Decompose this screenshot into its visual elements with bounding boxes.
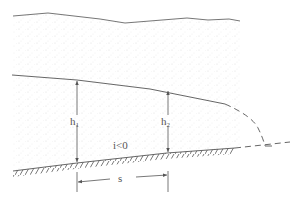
s-dimension-left [78,179,110,182]
h1-label-sub: 1 [76,121,80,129]
s-dimension-right [136,175,167,177]
h2-label-sub: 2 [167,121,171,129]
bed-line-dashed [235,142,290,148]
distance-label: s [118,173,122,184]
flow-profile-diagram: h1 h2 i<0 s [0,0,299,199]
h1-label: h1 [70,116,79,129]
diagram-svg [0,0,299,199]
slope-label: i<0 [113,140,128,151]
h2-label: h2 [161,116,170,129]
